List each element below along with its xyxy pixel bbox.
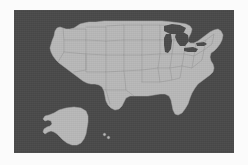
us-map-panel	[14, 10, 234, 153]
us-map-svg	[14, 10, 234, 153]
figure-root	[0, 0, 248, 165]
